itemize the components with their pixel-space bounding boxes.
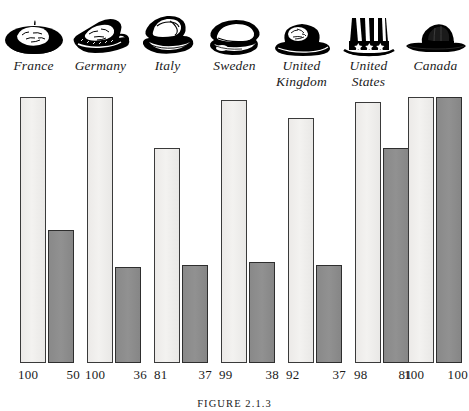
bar-light-united-states [355, 102, 381, 363]
value-dark-sweden: 38 [265, 367, 279, 383]
country-label-sweden: Sweden [201, 58, 268, 74]
country-label-line1: United [283, 58, 321, 73]
bar-group-canada [404, 96, 469, 363]
hat-cell-italy [134, 0, 201, 58]
value-pair-sweden: 99 38 [219, 367, 279, 383]
value-dark-germany: 36 [133, 367, 147, 383]
country-label-line2: Kingdom [268, 74, 335, 90]
value-dark-france: 50 [66, 367, 80, 383]
flat-cap-icon [204, 16, 266, 58]
bar-group-france [16, 96, 83, 363]
country-label-row: France Germany Italy Sweden United Kingd… [0, 58, 469, 96]
hat-illustration-row [0, 0, 469, 58]
value-pair-germany: 100 36 [85, 367, 147, 383]
country-label-line1: Germany [75, 58, 127, 73]
bar-light-italy [154, 148, 180, 363]
bar-dark-germany [115, 267, 141, 363]
country-label-line1: Italy [155, 58, 181, 73]
value-dark-canada: 100 [448, 367, 468, 383]
bowler-hat-icon [271, 16, 333, 58]
country-label-canada: Canada [402, 58, 469, 74]
value-pair-united-kingdom: 92 37 [286, 367, 346, 383]
value-dark-italy: 37 [198, 367, 212, 383]
uncle-sam-top-hat-icon [340, 12, 398, 58]
beret-hat-icon [3, 18, 65, 58]
baseline-rule [0, 362, 469, 363]
bar-light-sweden [221, 100, 247, 363]
bar-dark-france [48, 230, 74, 363]
bar-light-canada [408, 97, 434, 363]
hat-cell-sweden [201, 0, 268, 58]
bar-light-france [20, 97, 46, 363]
bar-dark-united-kingdom [316, 265, 342, 363]
bar-group-sweden [217, 96, 284, 363]
country-label-line1: United [350, 58, 388, 73]
tyrolean-hat-icon [69, 14, 133, 58]
country-label-line1: Canada [414, 58, 458, 73]
bar-group-united-kingdom [284, 96, 351, 363]
country-label-line2: States [335, 74, 402, 90]
value-dark-united-kingdom: 37 [332, 367, 346, 383]
bar-dark-sweden [249, 262, 275, 363]
hat-cell-france [0, 0, 67, 58]
figure-container: France Germany Italy Sweden United Kingd… [0, 0, 469, 411]
bar-light-germany [87, 97, 113, 363]
country-label-germany: Germany [67, 58, 134, 74]
value-light-france: 100 [18, 367, 38, 383]
country-label-france: France [0, 58, 67, 74]
hat-cell-united-kingdom [268, 0, 335, 58]
hat-cell-canada [402, 0, 469, 58]
bar-dark-italy [182, 265, 208, 363]
value-light-germany: 100 [85, 367, 105, 383]
value-light-united-states: 98 [354, 367, 368, 383]
country-label-line1: Sweden [213, 58, 255, 73]
value-pair-france: 100 50 [18, 367, 80, 383]
value-light-sweden: 99 [219, 367, 233, 383]
value-light-canada: 100 [404, 367, 424, 383]
mountie-hat-icon [404, 20, 468, 58]
country-label-italy: Italy [134, 58, 201, 74]
hat-cell-united-states [335, 0, 402, 58]
value-label-row: 100 50 100 36 81 37 99 38 92 37 98 81 10… [0, 367, 469, 389]
country-label-united-states: United States [335, 58, 402, 89]
value-light-italy: 81 [154, 367, 168, 383]
bar-light-united-kingdom [288, 118, 314, 363]
bar-plot-area [0, 96, 469, 363]
fedora-hat-icon [137, 12, 199, 58]
bar-dark-canada [436, 97, 462, 363]
bar-group-italy [150, 96, 217, 363]
figure-caption: FIGURE 2.1.3 [0, 398, 469, 411]
bar-group-germany [83, 96, 150, 363]
value-light-united-kingdom: 92 [286, 367, 300, 383]
country-label-line1: France [13, 58, 53, 73]
value-pair-italy: 81 37 [154, 367, 212, 383]
country-label-united-kingdom: United Kingdom [268, 58, 335, 89]
value-pair-canada: 100 100 [404, 367, 468, 383]
hat-cell-germany [67, 0, 134, 58]
